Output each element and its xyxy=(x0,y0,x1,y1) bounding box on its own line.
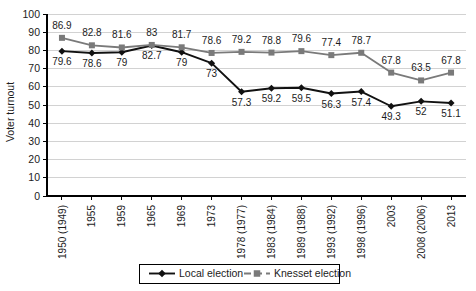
chart-legend: Local electionKnesset election xyxy=(139,264,351,283)
y-axis-group: 1009080706050403020100 xyxy=(22,8,47,202)
y-tick-label: 90 xyxy=(28,26,40,38)
series-group xyxy=(58,35,454,110)
y-axis-title-group: Voter turnout xyxy=(4,82,16,142)
data-value-label: 59.2 xyxy=(262,93,282,104)
x-tick-label: 1973 xyxy=(206,205,217,228)
data-point-marker-square-icon xyxy=(448,70,454,76)
x-tick-label: 1965 xyxy=(146,205,157,228)
y-tick-label: 100 xyxy=(22,8,40,20)
data-point-marker-diamond-icon xyxy=(328,90,335,97)
x-tick-label: 1989 (1988) xyxy=(296,205,307,259)
data-value-label: 59.5 xyxy=(292,93,312,104)
data-point-marker-square-icon xyxy=(119,44,125,50)
x-tick-label: 1993 (1992) xyxy=(326,205,337,259)
data-value-label: 63.5 xyxy=(411,62,431,73)
x-tick-label: 1950 (1949) xyxy=(57,205,68,259)
x-tick-label: 1978 (1977) xyxy=(236,205,247,259)
data-point-marker-diamond-icon xyxy=(388,103,395,110)
y-tick-label: 10 xyxy=(28,171,40,183)
value-labels-group: 79.678.67982.7797357.359.259.556.357.449… xyxy=(52,20,461,122)
data-point-marker-diamond-icon xyxy=(268,85,275,92)
data-value-label: 73 xyxy=(206,68,218,79)
data-value-label: 79.6 xyxy=(52,56,72,67)
data-value-label: 81.7 xyxy=(172,29,192,40)
y-tick-label: 20 xyxy=(28,153,40,165)
x-tick-label: 1983 (1984) xyxy=(266,205,277,259)
data-point-marker-square-icon xyxy=(268,50,274,56)
legend-label: Knesset election xyxy=(274,267,351,279)
legend-square-icon xyxy=(254,270,261,277)
data-point-marker-square-icon xyxy=(298,48,304,54)
data-value-label: 79 xyxy=(116,57,128,68)
data-value-label: 52 xyxy=(416,106,428,117)
data-value-label: 67.8 xyxy=(441,55,461,66)
y-tick-label: 40 xyxy=(28,117,40,129)
data-point-marker-diamond-icon xyxy=(418,98,425,105)
y-tick-label: 60 xyxy=(28,80,40,92)
x-tick-label: 1959 xyxy=(116,205,127,228)
data-value-label: 83 xyxy=(146,27,158,38)
data-value-label: 77.4 xyxy=(322,37,342,48)
y-tick-label: 30 xyxy=(28,135,40,147)
data-value-label: 57.3 xyxy=(232,97,252,108)
data-point-marker-diamond-icon xyxy=(58,48,65,55)
data-value-label: 78.6 xyxy=(202,35,222,46)
data-point-marker-square-icon xyxy=(328,52,334,58)
data-value-label: 82.7 xyxy=(142,50,162,61)
gridlines-group xyxy=(47,14,466,178)
x-tick-label: 1998 (1996) xyxy=(356,205,367,259)
data-value-label: 56.3 xyxy=(322,99,342,110)
data-point-marker-diamond-icon xyxy=(358,88,365,95)
x-tick-label: 2003 xyxy=(386,205,397,228)
data-value-label: 78.8 xyxy=(262,35,282,46)
legend-label: Local election xyxy=(179,267,243,279)
y-tick-label: 0 xyxy=(34,190,40,202)
data-value-label: 49.3 xyxy=(381,111,401,122)
data-value-label: 78.6 xyxy=(82,58,102,69)
data-point-marker-square-icon xyxy=(89,42,95,48)
y-axis-title: Voter turnout xyxy=(4,82,16,142)
data-value-label: 67.8 xyxy=(381,55,401,66)
data-point-marker-square-icon xyxy=(358,50,364,56)
data-point-marker-square-icon xyxy=(239,49,245,55)
data-point-marker-square-icon xyxy=(179,44,185,50)
data-value-label: 81.6 xyxy=(112,29,132,40)
chart-canvas: 1009080706050403020100 1950 (1949)195519… xyxy=(0,0,476,291)
data-point-marker-square-icon xyxy=(59,35,65,41)
x-axis-group: 1950 (1949)195519591965196919731978 (197… xyxy=(47,196,466,259)
data-point-marker-square-icon xyxy=(209,50,215,56)
data-value-label: 78.7 xyxy=(352,35,372,46)
x-tick-label: 2008 (2006) xyxy=(416,205,427,259)
y-tick-label: 50 xyxy=(28,99,40,111)
data-value-label: 79 xyxy=(176,57,188,68)
data-point-marker-square-icon xyxy=(149,42,155,48)
data-value-label: 86.9 xyxy=(52,20,72,31)
data-value-label: 82.8 xyxy=(82,27,102,38)
y-tick-label: 70 xyxy=(28,62,40,74)
data-point-marker-square-icon xyxy=(388,70,394,76)
data-value-label: 79.6 xyxy=(292,33,312,44)
data-point-marker-square-icon xyxy=(418,77,424,83)
data-value-label: 57.4 xyxy=(352,97,372,108)
x-tick-label: 1969 xyxy=(176,205,187,228)
x-tick-label: 1955 xyxy=(86,205,97,228)
voter-turnout-chart: 1009080706050403020100 1950 (1949)195519… xyxy=(0,0,476,291)
x-tick-label: 2013 xyxy=(446,205,457,228)
data-value-label: 51.1 xyxy=(441,108,461,119)
y-tick-label: 80 xyxy=(28,44,40,56)
data-value-label: 79.2 xyxy=(232,34,252,45)
data-point-marker-diamond-icon xyxy=(298,84,305,91)
